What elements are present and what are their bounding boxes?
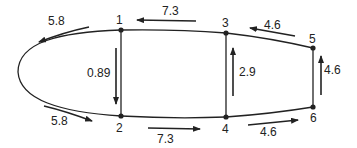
node-label-3: 3 [222,17,229,29]
edge-3-5 [226,33,313,48]
flow-label-4-3: 2.9 [239,66,256,78]
edge-4-6 [226,107,313,117]
arrow-top-left-icon [39,27,89,42]
flow-label-top-left: 5.8 [48,15,65,27]
flow-label-top-3-1: 7.3 [162,5,179,17]
flow-label-bottom-2-4: 7.3 [157,133,174,145]
arrow-top-3-to-1-icon [137,20,196,21]
flow-label-bottom-left: 5.8 [51,115,68,127]
node-label-4: 4 [222,123,229,135]
edge-2-4 [121,116,226,118]
node-4 [223,114,228,119]
node-label-6: 6 [310,112,317,124]
node-5 [310,45,315,50]
node-1 [118,27,123,32]
node-2 [118,113,123,118]
flow-label-bottom-4-6: 4.6 [260,126,277,138]
edge-1-3 [121,30,226,33]
node-label-2: 2 [116,122,123,134]
node-label-1: 1 [116,14,123,26]
flow-label-top-5-3: 4.6 [264,19,281,31]
node-3 [223,30,228,35]
flow-label-1-2: 0.89 [87,67,110,79]
flow-label-6-5: 4.6 [324,64,341,76]
node-6 [310,104,315,109]
arrow-bottom-2-to-4-icon [148,128,200,129]
node-label-5: 5 [309,33,316,45]
